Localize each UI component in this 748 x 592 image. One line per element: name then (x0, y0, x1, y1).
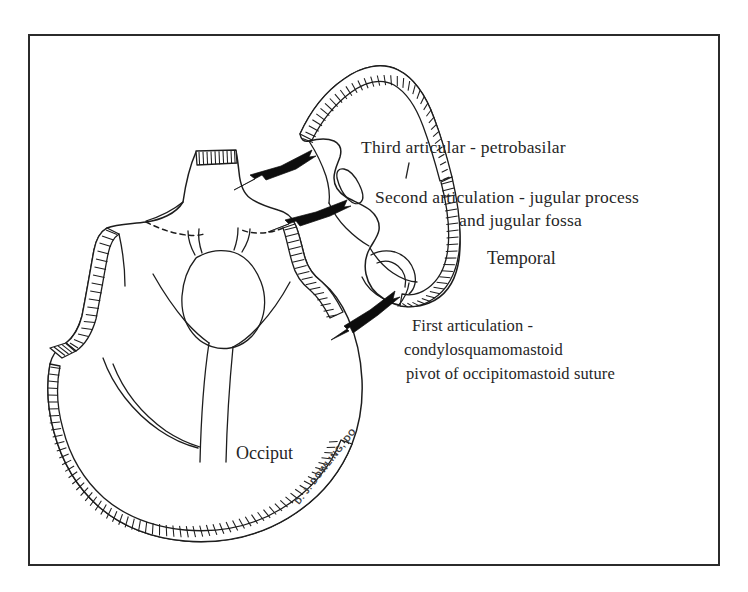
occipital-cruciform-right-arm (233, 282, 290, 347)
occipital-transverse-sulcus-inner (113, 364, 200, 447)
second-articulation-label-line2: and jugular fossa (459, 210, 582, 230)
left-condyle-dashed (146, 222, 204, 236)
third-articular-tick (406, 163, 409, 178)
occiput-left-lateral-hatch (66, 228, 119, 351)
figure-root: Third articular - petrobasilar Second ar… (0, 0, 748, 592)
occiput-right-lateral-hatch (283, 224, 343, 318)
right-condyle-arc (242, 229, 250, 252)
first-articulation-label-line3: pivot of occipitomastoid suture (406, 364, 615, 383)
occiput-upper-left-contour (146, 202, 183, 221)
right-condyle-arc-inner (234, 228, 238, 250)
second-articulation-label-line1: Second articulation - jugular process (375, 187, 639, 207)
left-condyle-arc-inner (199, 229, 202, 253)
articulation-arrows-group (234, 150, 400, 340)
temporal-inner-arc-1 (377, 261, 406, 287)
first-articulation-label-line1: First articulation - (412, 316, 533, 335)
occiput-region-label: Occiput (236, 443, 293, 463)
occipital-median-crest-right (226, 347, 233, 462)
first-articulation-label-line2: condylosquamomastoid (404, 340, 563, 359)
occipital-median-crest-left (200, 343, 209, 462)
third-articular-arrow (234, 150, 316, 190)
artist-signature: D. J. DOWLING, DO (293, 426, 359, 506)
occipital-transverse-sulcus-outer (103, 358, 198, 448)
occiput-lateral-angle-left (119, 234, 125, 286)
temporal-region-label: Temporal (487, 248, 556, 268)
occipital-cruciform-left-arm (153, 274, 209, 343)
occiput-superior-suture-hatch (196, 150, 237, 165)
temporal-mastoid-notch (370, 248, 417, 282)
temporal-lower-contour (362, 277, 384, 299)
third-articular-label: Third articular - petrobasilar (361, 137, 566, 157)
first-articulation-arrow (331, 291, 400, 340)
temporal-superior-hatch (300, 66, 452, 181)
annotations-group: Third articular - petrobasilar Second ar… (236, 137, 639, 506)
second-articulation-arrow (268, 200, 351, 232)
anatomical-illustration: Third articular - petrobasilar Second ar… (0, 0, 748, 592)
